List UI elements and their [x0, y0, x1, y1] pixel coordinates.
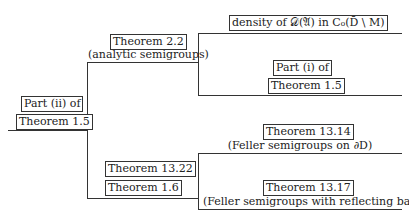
lower-branch-label-1: Theorem 13.22	[105, 161, 196, 177]
leaf-edge-1	[198, 33, 402, 34]
leaf-4-caption: (Feller semigroups with reflecting barri…	[203, 195, 405, 208]
upper-branch-caption: (analytic semigroups)	[88, 48, 198, 61]
upper-split	[198, 33, 199, 96]
leaf-2-label-1: Part (i) of	[273, 60, 332, 76]
lower-edge	[87, 198, 199, 199]
leaf-3-caption: (Feller semigroups on ∂D)	[200, 139, 400, 152]
root-edge	[8, 130, 88, 131]
leaf-4-label: Theorem 13.17	[263, 180, 354, 196]
root-label-1: Part (ii) of	[21, 96, 83, 112]
leaf-edge-3	[198, 153, 402, 154]
leaf-2-label-2: Theorem 1.5	[268, 78, 345, 94]
leaf-edge-4	[198, 209, 402, 210]
lower-branch-label-2: Theorem 1.6	[105, 180, 182, 196]
lower-split	[198, 153, 199, 210]
root-label-2: Theorem 1.5	[16, 114, 93, 130]
leaf-1-label: density of 𝒟(𝔄) in C₀(D̄ \ M)	[229, 15, 388, 31]
leaf-edge-2	[198, 95, 402, 96]
root-split	[87, 62, 88, 199]
upper-edge	[87, 62, 199, 63]
leaf-3-label: Theorem 13.14	[263, 124, 354, 140]
